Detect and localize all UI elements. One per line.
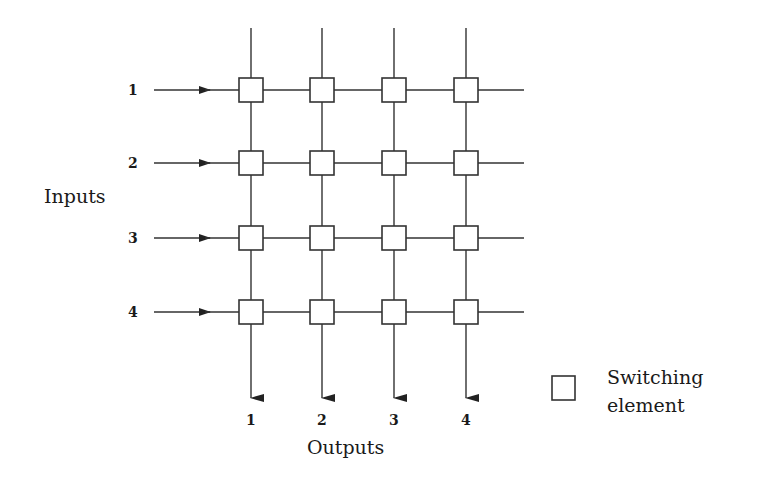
switch-element-1-1 [239, 78, 263, 102]
output-label-4: 4 [461, 412, 471, 428]
input-label-3: 3 [128, 230, 138, 246]
switch-element-4-4 [454, 300, 478, 324]
switch-element-1-2 [310, 78, 334, 102]
switch-element-1-3 [382, 78, 406, 102]
input-label-1: 1 [128, 82, 138, 98]
legend-switch-icon [552, 376, 575, 400]
legend-label-line1: Switching [607, 366, 703, 388]
switch-element-3-4 [454, 226, 478, 250]
legend: Switching element [552, 366, 703, 416]
switch-element-2-3 [382, 151, 406, 175]
input-label-4: 4 [128, 304, 138, 320]
output-label-1: 1 [246, 412, 256, 428]
input-label-2: 2 [128, 155, 138, 171]
row-lines [154, 90, 524, 312]
switch-element-3-1 [239, 226, 263, 250]
switch-element-3-3 [382, 226, 406, 250]
output-label-2: 2 [317, 412, 327, 428]
switch-element-4-1 [239, 300, 263, 324]
inputs-title: Inputs [44, 185, 106, 207]
switch-element-2-2 [310, 151, 334, 175]
switch-element-3-2 [310, 226, 334, 250]
crossbar-diagram: 1 2 3 4 Inputs 1 2 3 4 Outputs Switching… [0, 0, 757, 485]
column-lines [251, 28, 466, 398]
switch-grid [239, 78, 478, 324]
switch-element-4-3 [382, 300, 406, 324]
outputs-title: Outputs [307, 436, 384, 458]
switch-element-2-4 [454, 151, 478, 175]
switch-element-4-2 [310, 300, 334, 324]
output-label-3: 3 [389, 412, 399, 428]
switch-element-1-4 [454, 78, 478, 102]
legend-label-line2: element [607, 394, 685, 416]
switch-element-2-1 [239, 151, 263, 175]
